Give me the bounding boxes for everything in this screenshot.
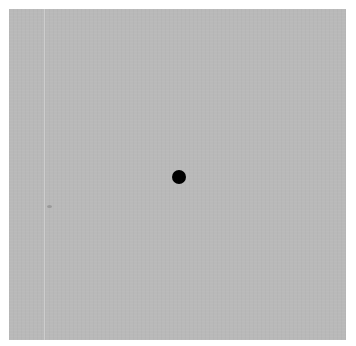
black-dot-target[interactable] [172, 170, 186, 184]
smudge-mark [47, 205, 52, 208]
vertical-guide-line [44, 9, 45, 340]
gray-canvas-area[interactable] [9, 9, 346, 340]
